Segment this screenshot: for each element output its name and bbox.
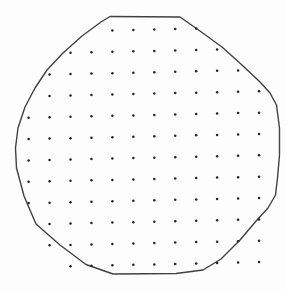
grid-dot (153, 199, 156, 202)
grid-dot (69, 265, 72, 268)
grid-dot (111, 264, 114, 267)
grid-dot (69, 222, 72, 225)
grid-dot (195, 177, 198, 180)
grid-dot (216, 240, 219, 243)
grid-dot (90, 115, 93, 118)
grid-dot (195, 220, 198, 223)
grid-dot (153, 242, 156, 245)
grid-dot (258, 133, 261, 136)
grid-dot (258, 239, 261, 242)
grid-dot (258, 154, 261, 157)
grid-dot (69, 158, 72, 161)
grid-dot (195, 70, 198, 73)
grid-dot (174, 71, 177, 74)
grid-dot (90, 179, 93, 182)
grid-dot (195, 262, 198, 265)
dot-circle-figure (0, 0, 286, 294)
grid-dot (90, 94, 93, 97)
grid-dot (174, 49, 177, 52)
grid-dot (174, 177, 177, 180)
grid-dot (237, 69, 240, 72)
grid-dot (90, 200, 93, 203)
grid-dot (258, 111, 261, 114)
grid-dot (132, 50, 135, 53)
grid-dot (216, 91, 219, 94)
grid-dot (195, 134, 198, 137)
grid-dot (216, 155, 219, 158)
grid-dot (69, 244, 72, 247)
grid-dot (111, 93, 114, 96)
grid-dot (216, 219, 219, 222)
grid-dot (174, 241, 177, 244)
grid-dot (69, 137, 72, 140)
grid-dot (90, 243, 93, 246)
grid-dot (153, 28, 156, 31)
grid-dot (48, 244, 51, 247)
figure-background (0, 0, 286, 294)
grid-dot (258, 218, 261, 221)
grid-dot (111, 136, 114, 139)
grid-dot (111, 115, 114, 118)
grid-dot (216, 70, 219, 73)
grid-dot (153, 50, 156, 53)
grid-dot (69, 94, 72, 97)
grid-dot (195, 27, 198, 30)
grid-dot (111, 29, 114, 32)
grid-dot (132, 71, 135, 74)
grid-dot (153, 92, 156, 95)
grid-dot (132, 264, 135, 267)
grid-dot (216, 48, 219, 51)
grid-dot (132, 136, 135, 139)
grid-dot (69, 201, 72, 204)
grid-dot (90, 222, 93, 225)
grid-dot (48, 137, 51, 140)
grid-dot (153, 178, 156, 181)
grid-dot (174, 92, 177, 95)
grid-dot (195, 155, 198, 158)
grid-dot (111, 157, 114, 160)
grid-dot (237, 197, 240, 200)
grid-dot (258, 197, 261, 200)
grid-dot (237, 219, 240, 222)
grid-dot (195, 198, 198, 201)
grid-dot (132, 242, 135, 245)
grid-dot (48, 223, 51, 226)
grid-dot (48, 180, 51, 183)
grid-dot (90, 51, 93, 54)
grid-dot (153, 263, 156, 266)
grid-dot (153, 220, 156, 223)
grid-dot (48, 116, 51, 119)
grid-dot (132, 178, 135, 181)
screenshot-root: { "figure": { "type": "diagram", "subjec… (0, 0, 286, 294)
grid-dot (237, 240, 240, 243)
grid-dot (216, 198, 219, 201)
grid-dot (69, 51, 72, 54)
grid-dot (111, 243, 114, 246)
grid-dot (153, 71, 156, 74)
grid-dot (90, 136, 93, 139)
grid-dot (90, 158, 93, 161)
figure-canvas (0, 0, 286, 294)
grid-dot (90, 72, 93, 75)
grid-dot (69, 180, 72, 183)
grid-dot (237, 261, 240, 264)
grid-dot (237, 133, 240, 136)
grid-dot (174, 28, 177, 31)
grid-dot (216, 134, 219, 137)
grid-dot (258, 90, 261, 93)
grid-dot (258, 175, 261, 178)
grid-dot (132, 157, 135, 160)
grid-dot (69, 116, 72, 119)
grid-dot (174, 263, 177, 266)
grid-dot (48, 201, 51, 204)
grid-dot (216, 112, 219, 115)
grid-dot (27, 202, 30, 205)
grid-dot (174, 156, 177, 159)
grid-dot (90, 265, 93, 268)
grid-dot (69, 73, 72, 76)
grid-dot (111, 200, 114, 203)
grid-dot (27, 159, 30, 162)
grid-dot (174, 220, 177, 223)
grid-dot (174, 113, 177, 116)
grid-dot (153, 135, 156, 138)
